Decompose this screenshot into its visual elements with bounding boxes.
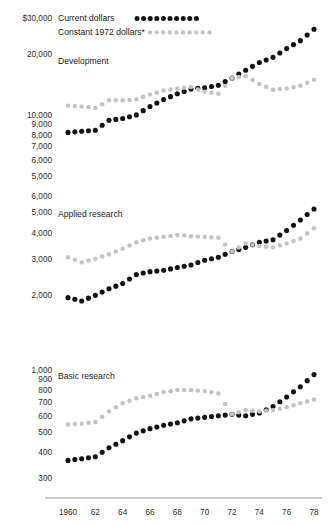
data-point [284, 394, 289, 399]
data-point [284, 86, 289, 91]
data-point [120, 281, 125, 286]
legend-label-0: Current dollars [58, 13, 114, 23]
data-point [230, 412, 235, 417]
data-point [202, 415, 207, 420]
data-point [106, 118, 111, 123]
x-tick-label: 74 [255, 508, 265, 517]
legend-marker-1 [201, 30, 205, 34]
data-point [182, 418, 187, 423]
data-point [305, 32, 310, 37]
data-point [120, 401, 125, 406]
data-point [223, 413, 228, 418]
data-point [72, 457, 77, 462]
data-point [120, 438, 125, 443]
y-tick-label: 9,000 [32, 120, 53, 129]
legend-marker-0 [181, 16, 186, 21]
data-point [216, 413, 221, 418]
data-point [188, 416, 193, 421]
data-point [100, 414, 105, 419]
data-point [148, 236, 153, 241]
data-point [202, 89, 207, 94]
data-point [298, 84, 303, 89]
data-point [271, 245, 276, 250]
data-point [284, 241, 289, 246]
legend-marker-1 [194, 30, 198, 34]
data-point [79, 260, 84, 265]
figure-root: Current dollarsConstant 1972 dollars* 5,… [0, 0, 333, 525]
data-point [223, 79, 228, 84]
data-point [278, 243, 283, 248]
data-point [182, 388, 187, 393]
data-point [250, 64, 255, 69]
data-point [278, 87, 283, 92]
data-point [277, 399, 282, 404]
data-point [73, 258, 78, 263]
data-point [168, 421, 173, 426]
data-point [250, 78, 255, 83]
data-point [134, 112, 139, 117]
y-tick-label: 1,000 [32, 366, 53, 375]
data-point [93, 106, 98, 111]
data-point [312, 77, 317, 82]
y-tick-label: 3,000 [32, 255, 53, 264]
data-point [134, 240, 139, 245]
data-point [175, 420, 180, 425]
data-point [291, 42, 296, 47]
data-point [107, 98, 112, 103]
data-point [147, 426, 152, 431]
data-point [291, 239, 296, 244]
data-point [243, 413, 248, 418]
x-tick-label: 1960 [59, 508, 78, 517]
data-point [100, 450, 105, 455]
data-point [243, 74, 248, 79]
data-point [114, 249, 119, 254]
legend-marker-0 [194, 16, 199, 21]
y-tick-label: 300 [38, 474, 52, 483]
legend-marker-1 [181, 30, 185, 34]
data-point [120, 246, 125, 251]
data-point [196, 388, 201, 393]
data-point [127, 114, 132, 119]
legend-marker-0 [141, 16, 146, 21]
data-point [270, 237, 275, 242]
data-point [202, 235, 207, 240]
data-point [298, 384, 303, 389]
data-point [223, 84, 228, 89]
data-point [305, 378, 310, 383]
y-tick-label: 10,000 [27, 111, 52, 120]
legend-marker-0 [168, 16, 173, 21]
data-point [66, 103, 71, 108]
data-point [168, 389, 173, 394]
data-point [141, 95, 146, 100]
data-point [230, 76, 235, 81]
y-tick-label: 6,000 [32, 156, 53, 165]
data-point [298, 38, 303, 43]
data-point [65, 295, 70, 300]
data-point [79, 104, 84, 109]
data-point [216, 92, 221, 97]
data-point [161, 97, 166, 102]
data-point [264, 408, 269, 413]
data-point [264, 57, 269, 62]
y-tick-label: $30,000 [22, 14, 52, 23]
data-point [79, 456, 84, 461]
data-point [257, 60, 262, 65]
x-tick-label: 72 [227, 508, 237, 517]
data-point [298, 401, 303, 406]
data-point [168, 234, 173, 239]
data-point [237, 245, 242, 250]
data-point [72, 129, 77, 134]
x-tick-label: 78 [309, 508, 319, 517]
data-point [182, 86, 187, 91]
data-point [311, 27, 316, 32]
data-point [264, 85, 269, 90]
legend-label-1: Constant 1972 dollars* [58, 27, 146, 37]
data-point [189, 85, 194, 90]
y-tick-label: 6,000 [32, 192, 53, 201]
data-point [264, 244, 269, 249]
legend: Current dollarsConstant 1972 dollars* [58, 13, 212, 37]
data-point [107, 252, 112, 257]
data-point [277, 233, 282, 238]
data-point [175, 388, 180, 393]
chart-svg: Current dollarsConstant 1972 dollars* 5,… [0, 0, 333, 525]
